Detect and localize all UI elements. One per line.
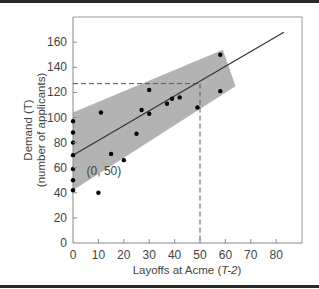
data-point (165, 101, 169, 105)
x-tick-label: 50 (193, 248, 207, 262)
x-tick-label: 70 (244, 248, 258, 262)
data-point (147, 88, 151, 92)
data-point (177, 95, 181, 99)
y-tick-label: 20 (54, 211, 68, 225)
data-point (109, 152, 113, 156)
data-point (218, 53, 222, 57)
y-tick-label: 40 (54, 186, 68, 200)
data-point (71, 153, 75, 157)
data-point (139, 108, 143, 112)
y-axis-title-line2: (number of applicants) (35, 73, 47, 188)
y-tick-label: 80 (54, 136, 68, 150)
data-point (96, 191, 100, 195)
x-tick-label: 20 (117, 248, 131, 262)
y-axis-title: Demand (T) (number of applicants) (22, 73, 47, 188)
data-point (71, 119, 75, 123)
x-axis-ticks: 01020304050607080 (70, 239, 284, 262)
x-tick-label: 0 (70, 248, 77, 262)
y-axis-title-line1: Demand (T) (22, 99, 34, 161)
data-point (122, 158, 126, 162)
data-point (99, 110, 103, 114)
data-point (71, 130, 75, 134)
x-tick-label: 80 (270, 248, 284, 262)
y-tick-label: 160 (47, 35, 67, 49)
data-point (170, 96, 174, 100)
y-tick-label: 0 (60, 236, 67, 250)
data-point (195, 105, 199, 109)
x-tick-label: 10 (92, 248, 106, 262)
x-axis-title: Layoffs at Acme (T-2) (133, 264, 242, 276)
regression-line (73, 32, 284, 155)
data-point (71, 188, 75, 192)
x-tick-label: 60 (219, 248, 233, 262)
scatter-chart: 01020304050607080 020406080100120140160 … (0, 0, 319, 289)
data-point (147, 112, 151, 116)
y-tick-label: 60 (54, 161, 68, 175)
data-point (134, 132, 138, 136)
y-tick-label: 100 (47, 111, 67, 125)
x-tick-label: 30 (143, 248, 157, 262)
regression-line-path (73, 32, 284, 155)
point-annotation: (0, 50) (87, 164, 122, 178)
data-point (218, 89, 222, 93)
data-point (71, 178, 75, 182)
x-tick-label: 40 (168, 248, 182, 262)
y-tick-label: 140 (47, 60, 67, 74)
y-tick-label: 120 (47, 85, 67, 99)
